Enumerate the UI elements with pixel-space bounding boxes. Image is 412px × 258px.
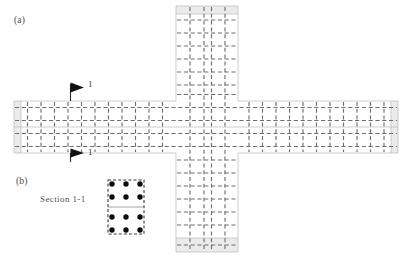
- section-marker-top-label: 1: [88, 79, 93, 89]
- cruciform-plan-drawing: [0, 0, 412, 258]
- rebar-dot: [109, 194, 114, 199]
- rebar-dot: [123, 227, 128, 232]
- rebar-dot: [137, 214, 142, 219]
- section-caption: Section 1-1: [40, 194, 86, 204]
- section-detail-drawing: [108, 180, 144, 234]
- rebar-dot: [109, 214, 114, 219]
- panel-label-a: (a): [14, 15, 25, 25]
- rebar-dot: [137, 181, 142, 186]
- rebar-dot: [123, 181, 128, 186]
- slab-outline: [14, 6, 398, 252]
- section-marker-bottom-label: 1: [88, 147, 93, 157]
- rebar-dot: [109, 227, 114, 232]
- edge-bands: [14, 6, 398, 252]
- rebar-dot: [137, 194, 142, 199]
- rebar-dot: [123, 194, 128, 199]
- rebar-dot: [123, 214, 128, 219]
- figure-container: (a) (b) Section 1-1 1 1: [0, 0, 412, 258]
- rebar-dot: [109, 181, 114, 186]
- rebar-dot: [137, 227, 142, 232]
- section-marker-top[interactable]: [71, 83, 85, 102]
- grid-vertical-arm: [177, 7, 237, 251]
- panel-label-b: (b): [16, 176, 28, 186]
